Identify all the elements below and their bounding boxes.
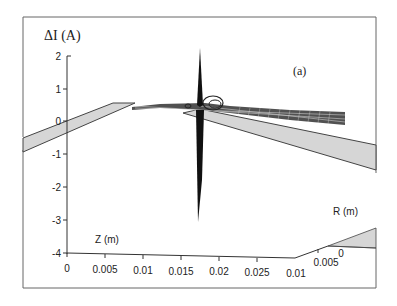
x-tick: 0.01 (133, 265, 153, 276)
r-axis-plane (328, 228, 376, 248)
x-tick: 0.01 (286, 268, 306, 279)
x-tick: 0.015 (168, 266, 193, 277)
x-axis (67, 246, 328, 262)
r-tick: 0 (338, 248, 344, 259)
r-axis-label: R (m) (333, 206, 358, 217)
panel-label: (a) (293, 64, 306, 78)
z-tick: 0 (55, 116, 61, 127)
z-tick: -3 (52, 215, 61, 226)
z-tick: 2 (55, 51, 61, 62)
x-tick: 0 (64, 263, 70, 274)
z-axis-label: ΔI (A) (44, 28, 81, 44)
x-tick: 0.025 (244, 267, 269, 278)
z-tick: -1 (52, 149, 61, 160)
z-tick: -2 (52, 182, 61, 193)
spike (196, 48, 204, 222)
z-tick: 1 (55, 84, 61, 95)
z-axis (63, 56, 71, 254)
left-zero-plane (23, 103, 135, 152)
x-tick: 0.005 (92, 264, 117, 275)
x-tick: 0.02 (209, 266, 229, 277)
x-axis-label: Z (m) (95, 234, 119, 245)
surface-plot: ΔI (A) (a) 2 1 0 -1 -2 -3 -4 Z (m) R (m)… (0, 0, 397, 306)
r-tick: 0.005 (313, 257, 338, 268)
z-tick: -4 (52, 248, 61, 259)
